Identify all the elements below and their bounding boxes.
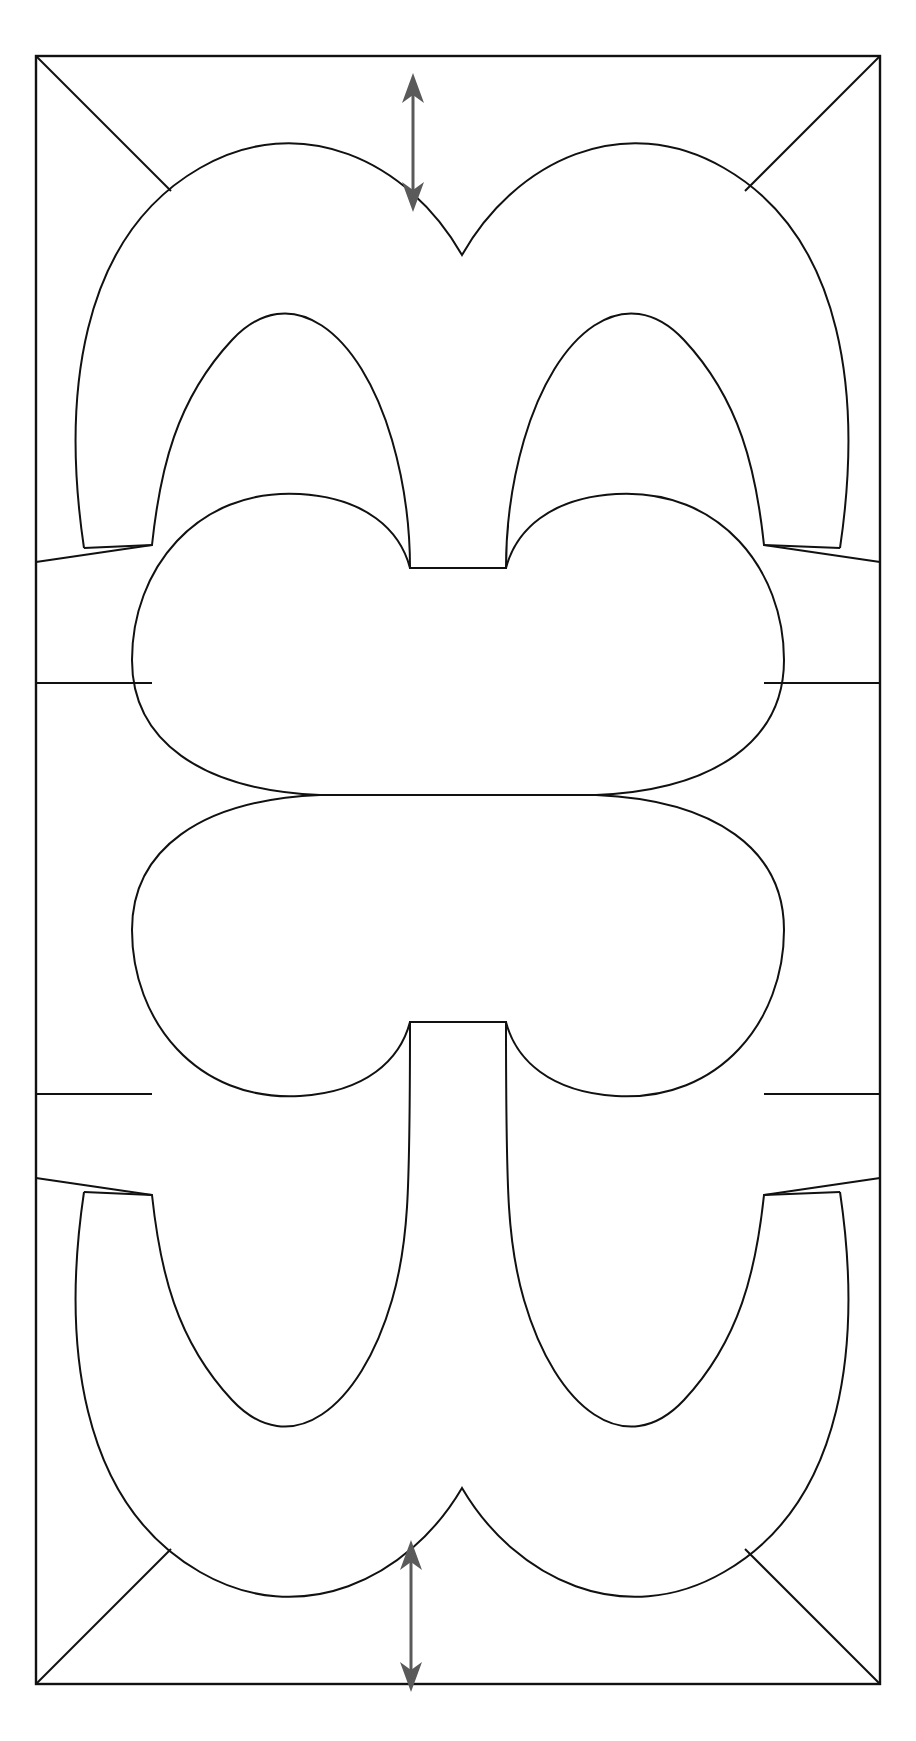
figure-canvas: Die-cut blank outline figure Technical l…: [0, 0, 916, 1741]
technical-line-drawing: [0, 0, 916, 1741]
page-background: [0, 0, 916, 1741]
